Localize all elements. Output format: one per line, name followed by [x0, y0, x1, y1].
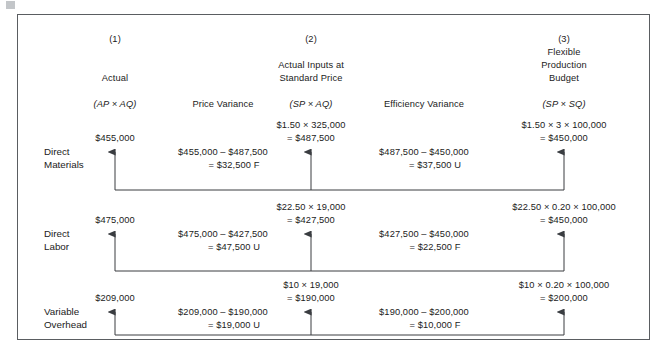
row-2-price-variance-line-1: $475,000 – $427,500 [178, 228, 268, 241]
row-2-price-variance-line-2: = $47,500 U [208, 241, 260, 254]
column-2-formula: (SP × AQ) [290, 98, 333, 110]
row-label-direct-labor: Direct Labor [44, 228, 70, 253]
row-2-efficiency-variance-line-1: $427,500 – $450,000 [379, 228, 469, 241]
row-1-efficiency-variance-line-2: = $37,500 U [409, 159, 461, 172]
row-1-col2-standard-line-2: = $487,500 [287, 132, 335, 145]
variance-analysis-figure: (1) Actual (AP × AQ) Price Variance (2) … [17, 14, 650, 340]
column-3-title-line-3: Budget [549, 72, 579, 84]
row-3-price-variance-line-2: = $19,000 U [208, 319, 260, 332]
column-1-formula: (AP × AQ) [94, 98, 137, 110]
scan-artifact [6, 1, 15, 9]
row-1-label-line-1: Direct [44, 146, 84, 159]
row-2-label-line-1: Direct [44, 228, 70, 241]
column-1-number: (1) [109, 33, 121, 45]
row-3-actual-amount: $209,000 [95, 292, 135, 304]
row-3-efficiency-variance-line-2: = $10,000 F [410, 319, 461, 332]
column-3-title-line-2: Production [541, 59, 586, 71]
row-2-col2-standard-line-2: = $427,500 [287, 214, 335, 227]
row-1-col3-standard-line-1: $1.50 × 3 × 100,000 [521, 119, 606, 132]
column-2-title-line-2: Standard Price [280, 72, 343, 84]
row-1-col3-standard-line-2: = $450,000 [540, 132, 588, 145]
row-3-col2-standard-line-2: = $190,000 [287, 292, 335, 305]
row-3-label-line-2: Overhead [44, 319, 87, 332]
row-label-variable-overhead: Variable Overhead [44, 306, 87, 331]
column-3-number: (3) [558, 33, 570, 45]
row-3-col3-standard-line-2: = $200,000 [540, 292, 588, 305]
row-3-label-line-1: Variable [44, 306, 87, 319]
column-3-title-line-1: Flexible [548, 46, 581, 58]
row-2-col3-standard-line-1: $22.50 × 0.20 × 100,000 [512, 201, 616, 214]
row-1-col2-standard-line-1: $1.50 × 325,000 [277, 119, 346, 132]
row-label-direct-materials: Direct Materials [44, 146, 84, 171]
row-1-actual-amount: $455,000 [95, 132, 135, 144]
row-1-price-variance-line-2: = $32,500 F [209, 159, 260, 172]
efficiency-variance-header: Efficiency Variance [384, 98, 464, 110]
column-1-title-line-1: Actual [102, 72, 128, 84]
column-2-title-line-1: Actual Inputs at [278, 59, 344, 71]
row-2-col2-standard-line-1: $22.50 × 19,000 [277, 201, 346, 214]
row-1-price-variance-line-1: $455,000 – $487,500 [178, 146, 268, 159]
row-2-efficiency-variance-line-2: = $22,500 F [410, 241, 461, 254]
row-2-actual-amount: $475,000 [95, 214, 135, 226]
row-2-col3-standard-line-2: = $450,000 [540, 214, 588, 227]
row-3-price-variance-line-1: $209,000 – $190,000 [178, 306, 268, 319]
row-3-col2-standard-line-1: $10 × 19,000 [283, 279, 339, 292]
row-1-label-line-2: Materials [44, 159, 84, 172]
row-3-efficiency-variance-line-1: $190,000 – $200,000 [379, 306, 469, 319]
row-1-efficiency-variance-line-1: $487,500 – $450,000 [379, 146, 469, 159]
price-variance-header: Price Variance [192, 98, 253, 110]
row-3-col3-standard-line-1: $10 × 0.20 × 100,000 [519, 279, 609, 292]
column-2-number: (2) [305, 33, 317, 45]
row-2-label-line-2: Labor [44, 241, 70, 254]
column-3-formula: (SP × SQ) [542, 98, 585, 110]
